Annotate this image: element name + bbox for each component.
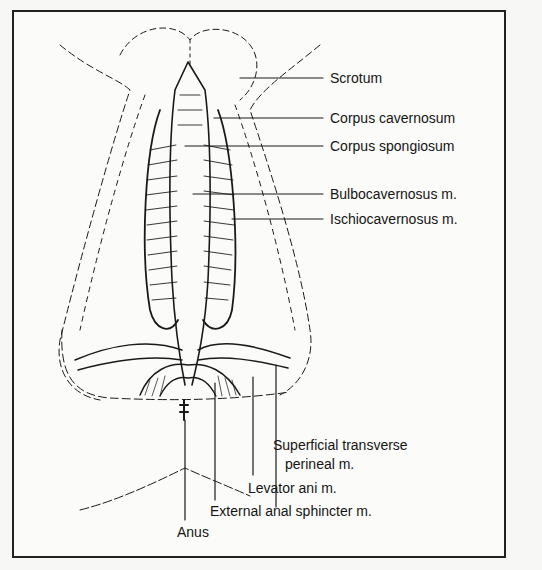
right-transverse-muscle [198, 344, 290, 368]
label-corpus-cavernosum: Corpus cavernosum [330, 110, 455, 126]
label-anus: Anus [177, 524, 209, 540]
anus-mark [180, 400, 188, 420]
label-corpus-spongiosum: Corpus spongiosum [330, 138, 455, 154]
leader-lines [185, 78, 323, 520]
right-crus [203, 110, 235, 329]
label-levator-ani: Levator ani m. [248, 480, 337, 496]
label-bulbocavernosus: Bulbocavernosus m. [330, 186, 457, 202]
left-transverse-muscle [75, 344, 182, 370]
label-superficial-transverse: Superficial transverse [273, 437, 408, 453]
label-scrotum: Scrotum [330, 70, 382, 86]
right-thigh-outline [250, 45, 320, 395]
label-superficial-transverse-line2: perineal m. [285, 456, 354, 472]
label-external-anal-sphincter: External anal sphincter m. [210, 503, 372, 519]
label-ischiocavernosus: Ischiocavernosus m. [330, 211, 458, 227]
anal-sphincter [140, 364, 240, 395]
